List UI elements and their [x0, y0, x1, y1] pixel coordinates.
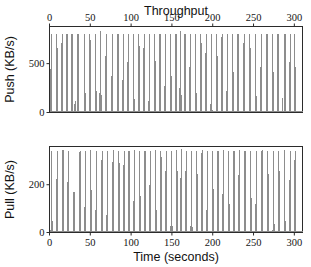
- y-axis-label-push: Push (KB/s): [3, 36, 17, 103]
- xtick-label-push-5: 250: [246, 12, 262, 23]
- xtick-label-pull-5: 250: [246, 237, 262, 248]
- ytick-label-pull-0: 0: [39, 227, 44, 238]
- throughput-chart: Throughput0500Push (KB/s)050100150200250…: [0, 0, 311, 267]
- xtick-label-push-2: 100: [123, 12, 139, 23]
- xtick-label-push-3: 150: [164, 12, 180, 23]
- ytick-label-push-1: 500: [29, 58, 45, 69]
- throughput-figure: Throughput0500Push (KB/s)050100150200250…: [0, 0, 311, 267]
- x-axis-label: Time (seconds): [133, 250, 219, 264]
- xtick-label-push-4: 200: [205, 12, 221, 23]
- y-axis-label-pull: Pull (KB/s): [3, 160, 17, 219]
- xtick-label-pull-2: 100: [123, 237, 139, 248]
- ytick-label-push-0: 0: [39, 107, 44, 118]
- panel-push: 0500Push (KB/s)050100150200250300: [3, 12, 303, 119]
- xtick-label-pull-6: 300: [286, 237, 302, 248]
- ytick-label-pull-1: 200: [29, 179, 45, 190]
- xtick-label-push-1: 50: [85, 12, 96, 23]
- panel-pull: 0200Pull (KB/s)050100150200250300: [3, 147, 303, 248]
- xtick-label-pull-4: 200: [205, 237, 221, 248]
- xtick-label-push-0: 0: [47, 12, 52, 23]
- xtick-label-pull-1: 50: [85, 237, 96, 248]
- xtick-label-pull-0: 0: [47, 237, 52, 248]
- xtick-label-pull-3: 150: [164, 237, 180, 248]
- xtick-label-push-6: 300: [286, 12, 302, 23]
